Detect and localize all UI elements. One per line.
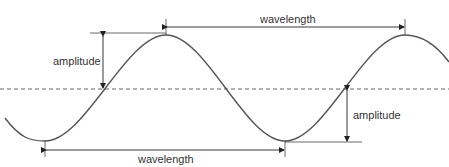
wavelength-label-top: wavelength <box>260 13 316 25</box>
sine-wave <box>5 35 449 141</box>
wave-diagram <box>0 0 449 167</box>
amplitude-label-right: amplitude <box>353 109 401 121</box>
amplitude-label-left: amplitude <box>53 55 101 67</box>
wavelength-label-bottom: wavelength <box>138 153 194 165</box>
